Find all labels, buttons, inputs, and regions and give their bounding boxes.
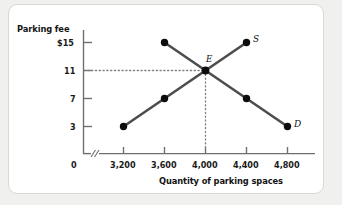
- origin-label: 0: [71, 161, 77, 169]
- x-tick-label-4800: 4,800: [274, 161, 300, 169]
- y-tick-label-3: 3: [70, 123, 76, 131]
- x-tick-label-3200: 3,200: [110, 161, 136, 169]
- demand-curve-label: D: [294, 120, 301, 129]
- x-axis-title: Quantity of parking spaces: [159, 177, 283, 185]
- x-tick-label-4000: 4,000: [192, 161, 218, 169]
- supply-point-3600: [161, 95, 168, 102]
- demand-point-3600: [161, 39, 168, 46]
- figure-card: Parking fee Quantity of parking spaces $…: [8, 4, 324, 194]
- x-tick-label-4400: 4,400: [233, 161, 259, 169]
- y-tick-label-7: 7: [70, 95, 76, 103]
- y-axis-title: Parking fee: [17, 25, 69, 33]
- plot-area: Parking fee Quantity of parking spaces $…: [9, 5, 325, 195]
- y-tick-label-15: $15: [57, 39, 74, 47]
- equilibrium-label: E: [206, 55, 212, 64]
- x-tick-label-3600: 3,600: [151, 161, 177, 169]
- supply-point-4400: [243, 39, 250, 46]
- supply-curve-label: S: [253, 35, 259, 44]
- supply-point-3200: [120, 123, 127, 130]
- demand-point-4400: [243, 95, 250, 102]
- axis-break-icon: [91, 150, 99, 157]
- y-tick-label-11: 11: [64, 67, 75, 75]
- demand-point-4800: [284, 123, 291, 130]
- equilibrium-point: [202, 67, 210, 75]
